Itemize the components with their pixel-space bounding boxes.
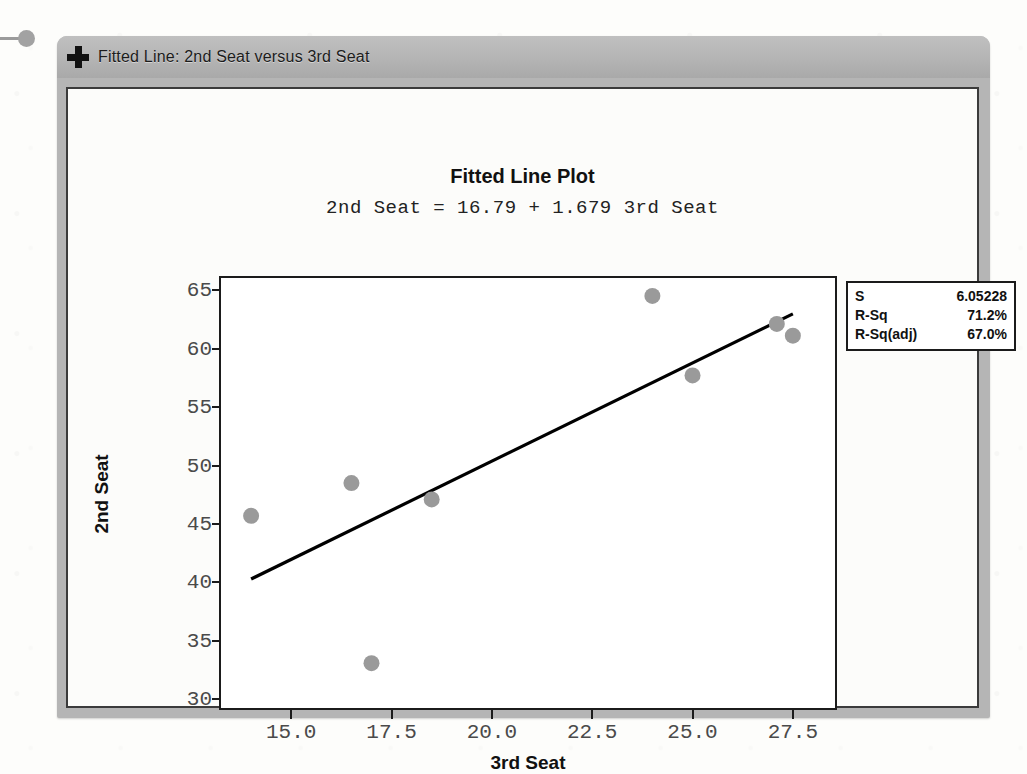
window-title: Fitted Line: 2nd Seat versus 3rd Seat [98, 48, 370, 66]
x-tick-mark [692, 710, 694, 719]
stat-value: 67.0% [967, 325, 1007, 344]
data-point [685, 367, 701, 383]
stat-row: R-Sq(adj)67.0% [855, 325, 1007, 344]
statistics-legend: S6.05228R-Sq71.2%R-Sq(adj)67.0% [846, 281, 1016, 351]
stat-key: R-Sq [855, 306, 888, 325]
y-tick-label: 45 [158, 513, 212, 536]
y-tick-label: 50 [158, 454, 212, 477]
data-point [644, 288, 660, 304]
data-points [243, 288, 801, 671]
y-axis-title: 2nd Seat [91, 454, 113, 533]
x-axis-title: 3rd Seat [219, 752, 837, 774]
data-point [424, 491, 440, 507]
stat-key: R-Sq(adj) [855, 325, 917, 344]
fitted-line-window: Fitted Line: 2nd Seat versus 3rd Seat Fi… [57, 36, 990, 718]
data-point [769, 316, 785, 332]
x-tick-label: 15.0 [246, 721, 336, 744]
y-tick-mark [212, 523, 221, 525]
data-point [243, 508, 259, 524]
x-tick-label: 20.0 [447, 721, 537, 744]
stat-key: S [855, 287, 864, 306]
x-tick-label: 17.5 [347, 721, 437, 744]
y-tick-label: 60 [158, 337, 212, 360]
data-point [785, 328, 801, 344]
y-tick-mark [212, 465, 221, 467]
x-tick-mark [290, 710, 292, 719]
y-tick-label: 40 [158, 571, 212, 594]
binder-pin-dot [18, 30, 35, 47]
y-axis-tick-labels: 3035404550556065 [150, 89, 212, 774]
fit-line [251, 314, 793, 579]
y-tick-mark [212, 406, 221, 408]
y-tick-label: 65 [158, 279, 212, 302]
data-point [363, 655, 379, 671]
x-tick-mark [491, 710, 493, 719]
x-tick-label: 25.0 [648, 721, 738, 744]
stat-row: R-Sq71.2% [855, 306, 1007, 325]
window-titlebar[interactable]: Fitted Line: 2nd Seat versus 3rd Seat [57, 36, 990, 78]
y-tick-mark [212, 698, 221, 700]
y-tick-label: 55 [158, 396, 212, 419]
x-tick-label: 22.5 [547, 721, 637, 744]
x-tick-label: 27.5 [748, 721, 838, 744]
data-point [343, 475, 359, 491]
stat-row: S6.05228 [855, 287, 1007, 306]
plot-series [219, 276, 837, 710]
stat-value: 6.05228 [956, 287, 1007, 306]
x-tick-mark [792, 710, 794, 719]
y-tick-label: 30 [158, 688, 212, 711]
y-tick-mark [212, 348, 221, 350]
y-tick-mark [212, 640, 221, 642]
y-tick-mark [212, 289, 221, 291]
x-tick-mark [591, 710, 593, 719]
x-tick-mark [391, 710, 393, 719]
graph-canvas: Fitted Line Plot 2nd Seat = 16.79 + 1.67… [66, 87, 979, 708]
stat-value: 71.2% [967, 306, 1007, 325]
regression-line [251, 314, 793, 579]
y-tick-label: 35 [158, 629, 212, 652]
plus-icon [67, 46, 89, 68]
y-tick-mark [212, 581, 221, 583]
